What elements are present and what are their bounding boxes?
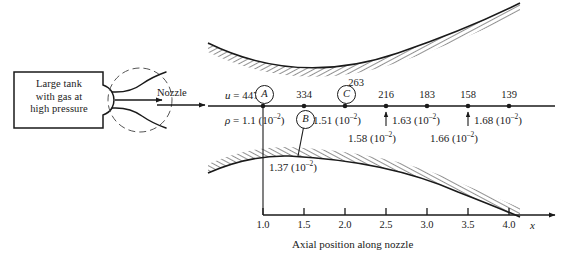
density-value-2: 1.37 [269, 161, 288, 173]
density-callout-2: 1.37 (10–2) [269, 160, 317, 173]
station-dot-f [466, 104, 471, 109]
leader-b [298, 125, 304, 156]
tank-label-line-2: with gas at [16, 91, 102, 104]
lower-nozzle-wall [208, 147, 520, 217]
tank-label-line-1: Large tank [16, 78, 102, 91]
velocity-value-6: 158 [453, 90, 483, 101]
density-callout-5: 1.63 (10–2) [392, 113, 440, 126]
tank-label-line-3: high pressure [16, 103, 102, 116]
station-dot-a [261, 104, 266, 109]
density-callout-4: 1.58 (10–2) [348, 131, 396, 144]
velocity-value-5: 183 [412, 90, 442, 101]
density-exp-7: –2 [511, 112, 519, 121]
nozzle-label: Nozzle [157, 88, 187, 99]
density-equation: ρ = 1.1 (10–2) [225, 113, 284, 126]
x-axis-ticks [263, 208, 509, 215]
station-circle-a: A [255, 85, 274, 104]
x-tick-label-6: 3.5 [453, 220, 483, 231]
density-value-3: 1.51 [313, 114, 332, 126]
density-exp-4: –2 [385, 130, 393, 139]
station-dot-c [343, 104, 348, 109]
density-value-1: 1.1 [242, 114, 256, 126]
velocity-value-7: 139 [494, 90, 524, 101]
station-circle-c: C [337, 85, 356, 104]
density-value-6: 1.66 [430, 132, 449, 144]
density-callout-3: 1.51 (10–2) [313, 113, 361, 126]
density-exp-6: –2 [467, 130, 475, 139]
density-value-5: 1.63 [392, 114, 411, 126]
nozzle-detail-circle [108, 68, 172, 132]
x-tick-label-3: 2.0 [330, 220, 360, 231]
density-callout-7: 1.68 (10–2) [474, 113, 522, 126]
station-dot-g [507, 104, 512, 109]
x-tick-label-1: 1.0 [248, 220, 278, 231]
density-value-7: 1.68 [474, 114, 493, 126]
x-tick-label-7: 4.0 [494, 220, 524, 231]
velocity-value-4: 216 [371, 90, 401, 101]
nozzle-flow-figure: Large tank with gas at high pressure Noz… [0, 0, 582, 263]
velocity-equation: u = 447 [225, 90, 259, 101]
x-axis-caption: Axial position along nozzle [292, 239, 413, 250]
density-exp-3: –2 [350, 112, 358, 121]
density-callout-6: 1.66 (10–2) [430, 131, 478, 144]
density-exp-1: –2 [273, 112, 281, 121]
density-value-4: 1.58 [348, 132, 367, 144]
station-markers [261, 104, 512, 109]
station-dot-d [384, 104, 389, 109]
streamlines [112, 72, 166, 128]
station-dot-e [425, 104, 430, 109]
x-tick-label-4: 2.5 [371, 220, 401, 231]
upper-nozzle-wall [208, 3, 520, 77]
x-tick-label-5: 3.0 [412, 220, 442, 231]
x-axis-symbol: x [530, 220, 535, 231]
station-dot-b [302, 104, 307, 109]
velocity-value-2: 334 [289, 90, 319, 101]
density-exp-2: –2 [306, 159, 314, 168]
x-tick-label-2: 1.5 [289, 220, 319, 231]
density-exp-5: –2 [429, 112, 437, 121]
tank-label: Large tank with gas at high pressure [16, 78, 102, 116]
